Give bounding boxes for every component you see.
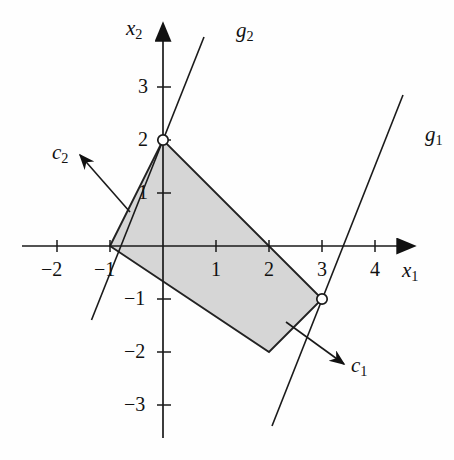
- y-tick-label-1: 1: [138, 181, 148, 204]
- x-tick-label-1: 1: [211, 258, 221, 281]
- gradient-arrow-c2: [80, 155, 130, 212]
- x-axis-label-subscript: 1: [411, 268, 418, 284]
- line-label-g1-base: g: [425, 122, 436, 146]
- x-axis-label: x1: [402, 258, 418, 285]
- x-tick-label-minus1: −1: [94, 258, 115, 281]
- line-label-g2-base: g: [236, 18, 247, 42]
- vector-label-c1-subscript: 1: [360, 363, 367, 379]
- y-tick-label-2: 2: [138, 128, 148, 151]
- vector-label-c2-subscript: 2: [61, 150, 68, 166]
- y-tick-label-minus3: −3: [124, 393, 145, 416]
- y-tick-label-3: 3: [138, 75, 148, 98]
- marked-point-3-minus1: [317, 294, 327, 304]
- y-axis-label-base: x: [126, 16, 135, 40]
- line-label-g1-subscript: 1: [436, 132, 443, 148]
- vector-label-c1-base: c: [351, 353, 360, 377]
- vector-label-c2: c2: [52, 140, 68, 167]
- vector-label-c2-base: c: [52, 140, 61, 164]
- y-axis-label: x2: [126, 16, 142, 43]
- x-axis-label-base: x: [402, 258, 411, 282]
- x-tick-label-4: 4: [370, 258, 380, 281]
- x-tick-label-minus2: −2: [41, 258, 62, 281]
- y-tick-label-minus2: −2: [124, 340, 145, 363]
- figure-canvas: −2 −1 1 2 3 4 3 2 1 −1 −2 −3 x1 x2 g2 g1…: [0, 0, 454, 460]
- y-axis-label-subscript: 2: [135, 26, 142, 42]
- y-tick-label-minus1: −1: [124, 287, 145, 310]
- line-label-g1: g1: [425, 122, 443, 149]
- line-label-g2: g2: [236, 18, 254, 45]
- constraint-line-g1: [272, 95, 403, 426]
- marked-point-0-2: [158, 135, 168, 145]
- x-tick-label-3: 3: [317, 258, 327, 281]
- line-label-g2-subscript: 2: [247, 28, 254, 44]
- x-tick-label-2: 2: [264, 258, 274, 281]
- vector-label-c1: c1: [351, 353, 367, 380]
- plot-svg: [0, 0, 454, 460]
- gradient-arrow-c1: [286, 322, 344, 364]
